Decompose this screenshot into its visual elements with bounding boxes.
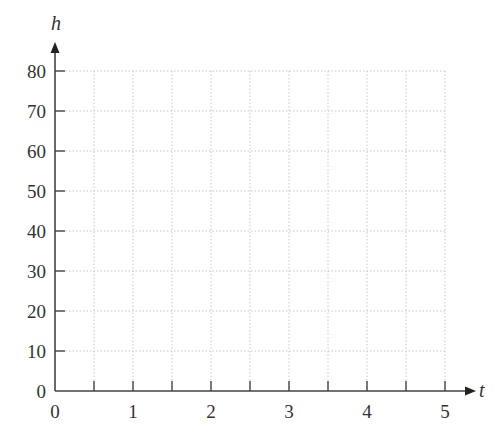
y-axis-arrow-icon: [51, 42, 60, 53]
x-tick-label: 3: [284, 401, 294, 422]
x-tick-label: 2: [206, 401, 216, 422]
y-tick-label: 10: [27, 341, 46, 362]
grid-lines: [55, 71, 445, 391]
x-tick-label: 4: [362, 401, 372, 422]
y-axis-label: h: [51, 12, 61, 34]
axes: [51, 42, 477, 396]
x-tick-label: 1: [128, 401, 138, 422]
y-tick-label: 80: [27, 61, 46, 82]
y-tick-label: 70: [27, 101, 46, 122]
x-axis-label: t: [479, 379, 485, 401]
x-tick-label: 0: [50, 401, 60, 422]
y-tick-label: 50: [27, 181, 46, 202]
x-tick-label: 5: [440, 401, 450, 422]
y-tick-label: 0: [37, 381, 47, 402]
y-tick-label: 20: [27, 301, 46, 322]
y-tick-label: 40: [27, 221, 46, 242]
empty-graph-grid: 01234501020304050607080 t h: [0, 0, 503, 434]
ticks: [55, 71, 445, 391]
y-tick-label: 30: [27, 261, 46, 282]
x-axis-arrow-icon: [465, 387, 476, 396]
tick-labels: 01234501020304050607080: [27, 61, 450, 422]
y-tick-label: 60: [27, 141, 46, 162]
